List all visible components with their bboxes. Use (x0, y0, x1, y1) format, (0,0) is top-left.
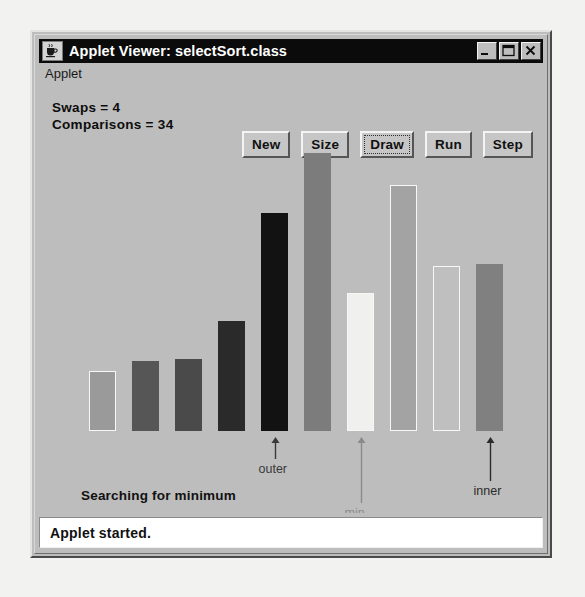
chart-bar (433, 266, 460, 431)
title-bar[interactable]: Applet Viewer: selectSort.class (39, 39, 543, 63)
menu-item-applet[interactable]: Applet (45, 66, 82, 81)
status-bar-text: Applet started. (50, 525, 151, 541)
java-coffee-cup-icon (42, 41, 63, 61)
menu-bar: Applet (39, 65, 543, 85)
chart-bar (390, 185, 417, 431)
pointer-label-outer: outer (259, 462, 288, 476)
close-icon[interactable] (521, 42, 541, 60)
pointer-label-inner: inner (474, 484, 502, 498)
chart-bar (476, 264, 503, 431)
pointer-arrow-min (356, 437, 367, 503)
applet-viewer-window: Applet Viewer: selectSort.class (30, 30, 552, 558)
pointer-arrow-outer (270, 437, 281, 459)
screenshot-page: Applet Viewer: selectSort.class (0, 0, 585, 597)
maximize-icon[interactable] (499, 42, 519, 60)
minimize-icon[interactable] (477, 42, 497, 60)
applet-canvas: Swaps = 4 Comparisons = 34 NewSizeDrawRu… (39, 85, 543, 513)
applet-status-message: Searching for minimum (81, 488, 236, 503)
window-title: Applet Viewer: selectSort.class (69, 43, 475, 59)
pointer-arrow-inner (485, 437, 496, 481)
chart-bar (132, 361, 159, 431)
status-bar: Applet started. (39, 517, 543, 548)
chart-bar (89, 371, 116, 431)
chart-bar (304, 153, 331, 431)
chart-bar (218, 321, 245, 431)
chart-bar (347, 293, 374, 431)
chart-bar (175, 359, 202, 431)
chart-bar (261, 213, 288, 431)
window-inner-frame: Applet Viewer: selectSort.class (34, 34, 548, 554)
pointer-label-min: min (345, 506, 365, 513)
sort-bar-chart: outermininner (39, 85, 543, 513)
